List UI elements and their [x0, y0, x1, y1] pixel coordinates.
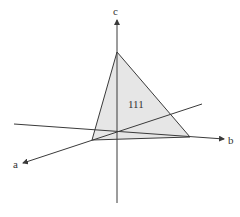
c-axis-label: c [113, 5, 118, 17]
a-axis-label: a [13, 158, 18, 170]
b-axis-label: b [228, 134, 234, 146]
plane-111-face [92, 52, 190, 140]
plane-label: 111 [128, 98, 144, 110]
crystal-plane-diagram: c b a 111 [0, 0, 240, 217]
